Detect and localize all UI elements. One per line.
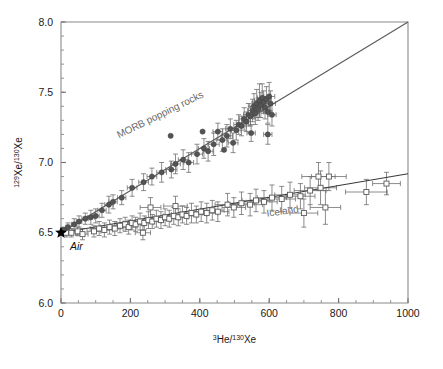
- data-point: [149, 174, 154, 179]
- data-point: [210, 208, 215, 213]
- xe-he-isotope-scatter-plot: 02004006008001000 6.06.57.07.58.0 3He/13…: [0, 0, 443, 369]
- data-point: [189, 211, 194, 216]
- data-point: [265, 132, 270, 137]
- data-point: [199, 209, 204, 214]
- x-tick-label: 0: [58, 307, 64, 319]
- data-point: [224, 133, 229, 138]
- data-point: [159, 170, 164, 175]
- data-point: [244, 119, 249, 124]
- data-point: [204, 211, 209, 216]
- data-point: [267, 94, 272, 99]
- data-point: [316, 174, 321, 179]
- data-point: [69, 230, 74, 235]
- data-point: [248, 114, 253, 119]
- data-point: [323, 205, 328, 210]
- data-point: [88, 215, 93, 220]
- x-tick-label: 600: [260, 307, 278, 319]
- data-point: [301, 211, 306, 216]
- data-point: [228, 126, 233, 131]
- data-point: [231, 205, 236, 210]
- data-point: [72, 222, 77, 227]
- data-point: [248, 202, 253, 207]
- data-point: [107, 225, 112, 230]
- data-point: [173, 161, 178, 166]
- x-tick-label: 800: [330, 307, 348, 319]
- data-point: [364, 190, 369, 195]
- data-point: [169, 167, 174, 172]
- data-point: [269, 112, 274, 117]
- data-point: [168, 133, 173, 138]
- x-tick-label: 400: [191, 307, 209, 319]
- data-point: [298, 194, 303, 199]
- air-annotation-label: Air: [69, 240, 83, 252]
- data-point: [93, 213, 98, 218]
- data-point: [225, 202, 230, 207]
- data-point: [279, 197, 284, 202]
- data-point: [206, 149, 211, 154]
- data-point: [76, 219, 81, 224]
- data-point: [148, 205, 153, 210]
- data-point: [211, 142, 216, 147]
- plot-background: [0, 0, 443, 369]
- data-point: [194, 212, 199, 217]
- data-point: [326, 174, 331, 179]
- y-tick-label: 7.5: [38, 86, 53, 98]
- data-point: [220, 137, 225, 142]
- data-point: [83, 216, 88, 221]
- data-point: [80, 232, 85, 237]
- data-point: [112, 226, 117, 231]
- y-tick-label: 7.0: [38, 156, 53, 168]
- data-point: [308, 188, 313, 193]
- data-point: [99, 208, 104, 213]
- x-tick-label: 200: [122, 307, 140, 319]
- data-point: [117, 223, 122, 228]
- data-point: [186, 160, 191, 165]
- y-tick-label: 8.0: [38, 16, 53, 28]
- data-point: [215, 209, 220, 214]
- chart-figure: 02004006008001000 6.06.57.07.58.0 3He/13…: [0, 0, 443, 369]
- data-point: [141, 180, 146, 185]
- data-point: [254, 198, 259, 203]
- data-point: [194, 151, 199, 156]
- data-point: [119, 195, 124, 200]
- data-point: [261, 199, 266, 204]
- data-point: [384, 181, 389, 186]
- data-point: [75, 229, 80, 234]
- data-point: [97, 226, 102, 231]
- data-point: [268, 101, 273, 106]
- data-point: [110, 199, 115, 204]
- x-tick-label: 1000: [396, 307, 420, 319]
- data-point: [200, 129, 205, 134]
- data-point: [102, 227, 107, 232]
- data-point: [184, 213, 189, 218]
- data-point: [234, 128, 239, 133]
- data-point: [215, 129, 220, 134]
- data-point: [239, 123, 244, 128]
- data-point: [91, 229, 96, 234]
- data-point: [221, 147, 226, 152]
- data-point: [140, 230, 145, 235]
- data-point: [288, 192, 293, 197]
- data-point: [269, 195, 274, 200]
- data-point: [65, 225, 70, 230]
- y-tick-label: 6.0: [38, 297, 53, 309]
- data-point: [239, 201, 244, 206]
- data-point: [181, 157, 186, 162]
- data-point: [318, 185, 323, 190]
- data-point: [231, 140, 236, 145]
- data-point: [173, 204, 178, 209]
- data-point: [130, 185, 135, 190]
- data-point: [249, 130, 254, 135]
- y-tick-label: 6.5: [38, 226, 53, 238]
